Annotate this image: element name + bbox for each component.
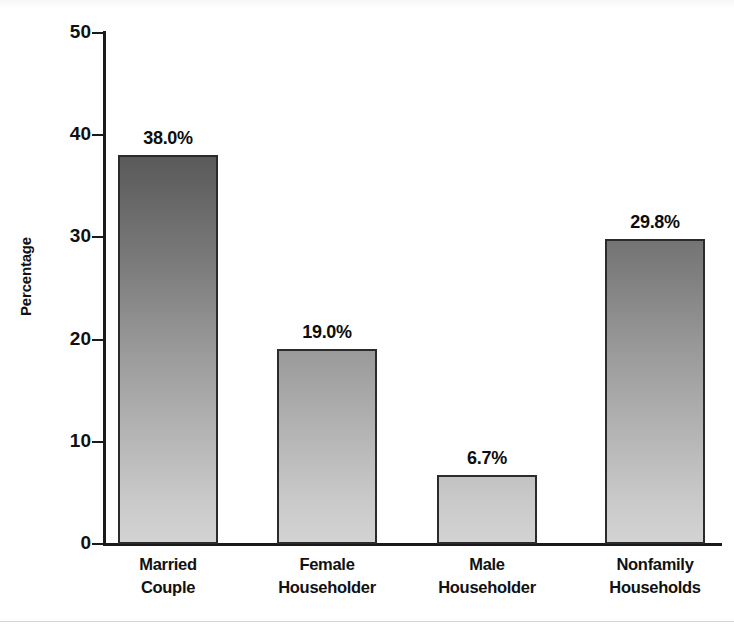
x-category-label-male-householder: Male Householder <box>412 553 562 600</box>
bar-value-male-householder: 6.7% <box>437 448 537 469</box>
bar-male-householder <box>437 475 537 544</box>
x-category-line-1: Married <box>98 553 238 576</box>
bar-value-nonfamily-households: 29.8% <box>605 212 705 233</box>
bar-fill-female-householder <box>279 349 375 544</box>
bar-value-female-householder: 19.0% <box>277 322 377 343</box>
x-category-label-female-householder: Female Householder <box>252 553 402 600</box>
x-category-line-1: Male <box>412 553 562 576</box>
bar-fill-nonfamily-households <box>607 239 703 544</box>
bars-layer: 38.0% 19.0% 6.7% 29.8% <box>0 0 734 629</box>
bottom-divider <box>0 621 734 622</box>
x-category-line-2: Householder <box>252 576 402 599</box>
x-category-line-2: Householder <box>412 576 562 599</box>
bar-fill-married-couple <box>120 155 216 544</box>
x-category-label-nonfamily-households: Nonfamily Households <box>580 553 730 600</box>
bar-female-householder <box>277 349 377 544</box>
x-category-line-2: Couple <box>98 576 238 599</box>
bar-nonfamily-households <box>605 239 705 544</box>
bar-married-couple <box>118 155 218 544</box>
x-category-label-married-couple: Married Couple <box>98 553 238 600</box>
bar-fill-male-householder <box>439 475 535 544</box>
bar-chart: Percentage 50 40 30 20 10 0 38.0% 19.0% … <box>0 0 734 629</box>
x-category-line-1: Female <box>252 553 402 576</box>
bar-value-married-couple: 38.0% <box>118 128 218 149</box>
x-category-line-2: Households <box>580 576 730 599</box>
x-category-line-1: Nonfamily <box>580 553 730 576</box>
